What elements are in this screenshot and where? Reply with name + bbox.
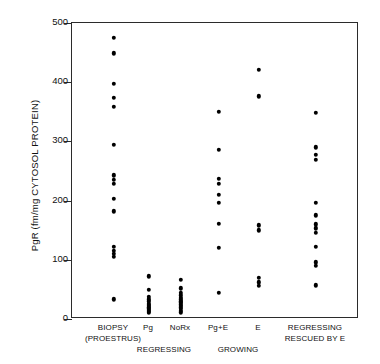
data-point bbox=[314, 264, 318, 268]
x-group-label-line1: REGRESSING bbox=[265, 322, 365, 333]
data-point bbox=[314, 283, 318, 287]
data-point bbox=[314, 213, 318, 217]
data-point bbox=[217, 291, 221, 295]
data-point bbox=[112, 51, 116, 55]
data-point bbox=[217, 246, 221, 250]
x-span-label-1: GROWING bbox=[183, 344, 293, 355]
y-tick-label: 0 bbox=[28, 312, 68, 323]
data-point bbox=[112, 82, 116, 86]
data-point bbox=[314, 153, 318, 157]
y-tick-label: 200 bbox=[28, 194, 68, 205]
data-point bbox=[179, 286, 183, 290]
data-point bbox=[179, 310, 183, 314]
data-point bbox=[112, 197, 116, 201]
data-point bbox=[257, 68, 261, 72]
data-point bbox=[257, 284, 261, 288]
data-point bbox=[217, 201, 221, 205]
y-tick-label: 300 bbox=[28, 134, 68, 145]
x-group-label-line2: (PROESTRUS) bbox=[63, 333, 163, 344]
y-tick-label: 400 bbox=[28, 75, 68, 86]
data-point bbox=[314, 111, 318, 115]
data-point bbox=[217, 176, 221, 180]
data-point bbox=[217, 147, 221, 151]
data-point bbox=[112, 255, 116, 259]
plot-area: 0100200300400500 bbox=[71, 22, 358, 318]
data-point bbox=[217, 192, 221, 196]
data-point bbox=[257, 223, 261, 227]
data-point bbox=[112, 297, 116, 301]
data-point bbox=[112, 143, 116, 147]
data-point bbox=[257, 228, 261, 232]
data-point bbox=[257, 94, 261, 98]
data-point bbox=[314, 230, 318, 234]
y-tick-label: 100 bbox=[28, 253, 68, 264]
data-point bbox=[314, 158, 318, 162]
data-point bbox=[112, 209, 116, 213]
data-point bbox=[217, 221, 221, 225]
data-point bbox=[314, 145, 318, 149]
data-point bbox=[257, 275, 261, 279]
data-point bbox=[112, 173, 116, 177]
data-point bbox=[112, 105, 116, 109]
data-point bbox=[179, 278, 183, 282]
data-point bbox=[314, 245, 318, 249]
data-point bbox=[147, 288, 151, 292]
data-point bbox=[112, 182, 116, 186]
scatter-chart-figure: PgR (fm/mg CYTOSOL PROTEIN) 010020030040… bbox=[0, 0, 380, 364]
data-point bbox=[112, 36, 116, 40]
data-point bbox=[217, 110, 221, 114]
data-point bbox=[314, 201, 318, 205]
y-tick-label: 500 bbox=[28, 16, 68, 27]
data-point bbox=[147, 311, 151, 315]
data-point bbox=[217, 182, 221, 186]
x-group-label-5: REGRESSINGRESCUED BY E bbox=[265, 322, 365, 344]
x-group-label-line2: RESCUED BY E bbox=[265, 333, 365, 344]
data-point bbox=[147, 274, 151, 278]
data-point bbox=[112, 95, 116, 99]
